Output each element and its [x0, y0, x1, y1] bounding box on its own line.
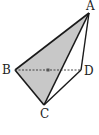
shaded-face-abc	[15, 13, 89, 105]
midpoint-mark	[47, 69, 50, 72]
vertex-label-c: C	[40, 107, 49, 121]
tetrahedron-diagram: A B C D	[0, 0, 99, 135]
vertex-label-d: D	[84, 64, 94, 78]
vertex-label-a: A	[85, 0, 95, 13]
diagram-canvas: A B C D	[0, 0, 99, 135]
vertex-label-b: B	[2, 63, 11, 77]
